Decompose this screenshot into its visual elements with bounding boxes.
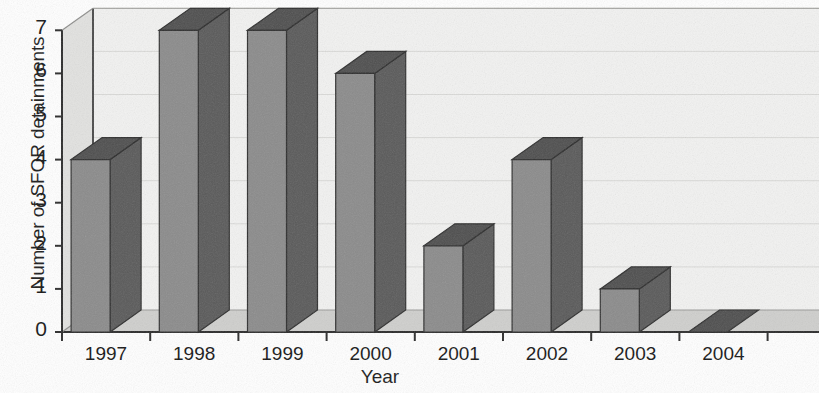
chart-canvas bbox=[0, 0, 819, 393]
x-axis-tick-label: 2003 bbox=[591, 343, 679, 365]
plot-area: 0123456719971998199920002001200220032004 bbox=[0, 0, 819, 393]
bar-front-face bbox=[336, 73, 375, 332]
bar-side-face bbox=[198, 8, 229, 332]
x-axis-tick-label: 1998 bbox=[150, 343, 238, 365]
bar-side-face bbox=[110, 138, 141, 332]
y-axis-tick-label: 6 bbox=[17, 58, 47, 82]
x-axis-tick-label: 2001 bbox=[415, 343, 503, 365]
bar-front-face bbox=[248, 30, 287, 332]
x-axis-tick-label: 1999 bbox=[238, 343, 326, 365]
y-axis-tick-label: 7 bbox=[17, 15, 47, 39]
y-axis-tick-label: 4 bbox=[17, 145, 47, 169]
bar-2001[interactable] bbox=[424, 224, 494, 332]
bar-side-face bbox=[375, 51, 406, 332]
bar-front-face bbox=[600, 289, 639, 332]
bar-1998[interactable] bbox=[159, 8, 229, 332]
bar-front-face bbox=[71, 160, 110, 332]
bar-front-face bbox=[159, 30, 198, 332]
figure-root: Number of SFOR detainments Year 01234567… bbox=[0, 0, 819, 393]
bar-2002[interactable] bbox=[512, 138, 582, 332]
x-axis-tick-label: 1997 bbox=[62, 343, 150, 365]
bar-front-face bbox=[512, 160, 551, 332]
bar-front-face bbox=[424, 246, 463, 332]
x-axis-tick-label: 2004 bbox=[679, 343, 767, 365]
x-axis-tick-label: 2002 bbox=[503, 343, 591, 365]
y-axis-tick-label: 3 bbox=[17, 188, 47, 212]
bar-side-face bbox=[551, 138, 582, 332]
bar-side-face bbox=[287, 8, 318, 332]
bar-1997[interactable] bbox=[71, 138, 141, 332]
bar-2000[interactable] bbox=[336, 51, 406, 332]
y-axis-tick-label: 0 bbox=[17, 317, 47, 341]
y-axis-tick-label: 2 bbox=[17, 231, 47, 255]
y-axis-tick-label: 1 bbox=[17, 274, 47, 298]
bar-1999[interactable] bbox=[248, 8, 318, 332]
y-axis-tick-label: 5 bbox=[17, 102, 47, 126]
x-axis-tick-label: 2000 bbox=[327, 343, 415, 365]
